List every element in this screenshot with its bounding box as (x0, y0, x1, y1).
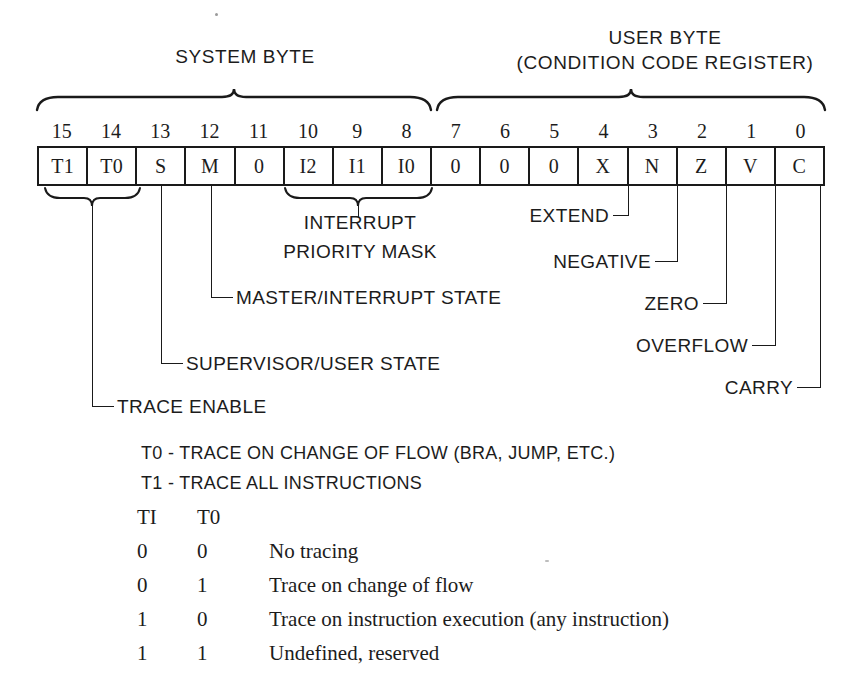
bit-cell-15: T1 (39, 148, 88, 184)
cell-t1: 0 (137, 539, 197, 573)
bit-cell-3: N (629, 148, 678, 184)
leader-extend-vertical (628, 186, 629, 215)
bit-cell-8: I0 (383, 148, 432, 184)
table-header-row: TI T0 (137, 505, 669, 539)
callout-supervisor-user-state: SUPERVISOR/USER STATE (186, 353, 440, 375)
bit-cell-6: 0 (481, 148, 530, 184)
leader-supervisor-user-state-vertical (161, 186, 162, 363)
scan-speck (545, 560, 549, 562)
leader-trace-enable-horizontal (92, 406, 114, 407)
trace-note-t0: T0 - TRACE ON CHANGE OF FLOW (BRA, JUMP,… (141, 443, 615, 464)
cell-t0: 0 (197, 607, 265, 641)
table-header-t0: T0 (197, 505, 265, 539)
callout-carry: CARRY (597, 377, 793, 399)
bit-number: 8 (382, 118, 431, 144)
bit-cell-11: 0 (236, 148, 285, 184)
register-bit-row: T1 T0 S M 0 I2 I1 I0 0 0 0 X N Z V C (37, 146, 825, 186)
cell-t0: 1 (197, 641, 265, 675)
leader-carry-vertical (820, 186, 821, 387)
bit-number: 13 (136, 118, 185, 144)
bit-cell-7: 0 (432, 148, 481, 184)
bit-number: 7 (431, 118, 480, 144)
bit-number-row: 15 14 13 12 11 10 9 8 7 6 5 4 3 2 1 0 (37, 118, 825, 144)
bit-cell-9: I1 (334, 148, 383, 184)
bit-cell-5: 0 (530, 148, 579, 184)
leader-master-interrupt-state-vertical (211, 186, 212, 297)
callout-trace-enable: TRACE ENABLE (117, 396, 266, 418)
leader-trace-enable-vertical (92, 206, 93, 406)
bit-number: 11 (234, 118, 283, 144)
table-header-description (265, 505, 669, 539)
bit-number: 14 (86, 118, 135, 144)
callout-extend: EXTEND (413, 205, 609, 227)
bit-number: 0 (776, 118, 825, 144)
cell-t1: 1 (137, 607, 197, 641)
bit-cell-14: T0 (88, 148, 137, 184)
callout-overflow: OVERFLOW (552, 335, 748, 357)
bit-cell-13: S (137, 148, 186, 184)
leader-negative-horizontal (655, 261, 678, 262)
leader-zero-vertical (726, 186, 727, 303)
bit-number: 12 (185, 118, 234, 144)
leader-overflow-horizontal (752, 345, 776, 346)
cell-description: Trace on change of flow (265, 573, 669, 607)
cell-t1: 1 (137, 641, 197, 675)
bit-cell-2: Z (678, 148, 727, 184)
bit-cell-1: V (727, 148, 776, 184)
group-subtitle-condition-code-register: (CONDITION CODE REGISTER) (490, 52, 840, 74)
bit-number: 3 (628, 118, 677, 144)
bit-number: 1 (727, 118, 776, 144)
leader-master-interrupt-state-horizontal (211, 297, 233, 298)
bit-number: 2 (677, 118, 726, 144)
group-title-system-byte: SYSTEM BYTE (120, 46, 370, 68)
trace-truth-table: TI T0 0 0 No tracing 0 1 Trace on change… (137, 505, 669, 675)
bit-cell-0: C (776, 148, 823, 184)
bit-number: 9 (333, 118, 382, 144)
bit-number: 6 (480, 118, 529, 144)
leader-supervisor-user-state-horizontal (161, 363, 183, 364)
table-header-t1: TI (137, 505, 197, 539)
leader-overflow-vertical (775, 186, 776, 345)
bit-cell-10: I2 (285, 148, 334, 184)
cell-description: Trace on instruction execution (any inst… (265, 607, 669, 641)
bit-number: 5 (530, 118, 579, 144)
leader-carry-horizontal (797, 387, 821, 388)
bit-cell-12: M (186, 148, 235, 184)
callout-priority-mask: PRIORITY MASK (250, 241, 470, 263)
bit-number: 15 (37, 118, 86, 144)
cell-description: Undefined, reserved (265, 641, 669, 675)
leader-zero-horizontal (703, 303, 727, 304)
callout-negative: NEGATIVE (455, 251, 651, 273)
cell-t0: 0 (197, 539, 265, 573)
bit-cell-4: X (579, 148, 628, 184)
table-row: 1 0 Trace on instruction execution (any … (137, 607, 669, 641)
table-row: 0 0 No tracing (137, 539, 669, 573)
leader-extend-horizontal (613, 215, 629, 216)
table-row: 0 1 Trace on change of flow (137, 573, 669, 607)
trace-note-t1: T1 - TRACE ALL INSTRUCTIONS (141, 473, 422, 494)
callout-zero: ZERO (503, 293, 699, 315)
top-group-braces (0, 86, 865, 116)
cell-t1: 0 (137, 573, 197, 607)
leader-negative-vertical (677, 186, 678, 261)
cell-t0: 1 (197, 573, 265, 607)
scan-speck (215, 13, 218, 16)
table-row: 1 1 Undefined, reserved (137, 641, 669, 675)
bit-number: 4 (579, 118, 628, 144)
cell-description: No tracing (265, 539, 669, 573)
callout-master-interrupt-state: MASTER/INTERRUPT STATE (236, 287, 501, 309)
group-title-user-byte: USER BYTE (520, 27, 810, 49)
status-register-diagram: SYSTEM BYTE USER BYTE (CONDITION CODE RE… (0, 0, 865, 698)
bit-number: 10 (283, 118, 332, 144)
